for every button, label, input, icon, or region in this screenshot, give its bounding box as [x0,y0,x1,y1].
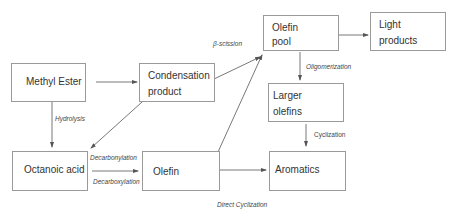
edge-condensation-to-olefin-pool [214,57,260,79]
node-label-line2: olefins [273,106,302,117]
node-olefin-pool: Olefin pool [263,15,339,51]
node-label: Octanoic acid [24,164,85,175]
node-larger-olefins: Larger olefins [268,83,344,122]
node-label: Methyl Ester [26,76,82,87]
edge-olefin-to-olefin-pool [218,55,262,152]
node-light-products: Light products [370,12,446,51]
edge-label-decarboxylation: Decarboxylation [93,178,140,185]
edge-label-hydrolysis: Hydrolysis [55,115,85,122]
edge-label-direct-cyclization: Direct Cyclization [217,201,267,208]
node-label-line1: Larger [273,90,302,101]
node-label-line2: products [379,35,417,46]
node-octanoic-acid: Octanoic acid [12,151,88,191]
edge-label-cyclization: Cyclization [314,131,345,138]
edge-label-oligomerization: Oligomerization [306,63,351,70]
node-label: Aromatics [275,164,319,175]
node-label-line1: Olefin [272,22,298,33]
node-aromatics: Aromatics [269,151,346,191]
edge-label-beta-scission: β-scission [213,40,242,47]
node-label-line1: Light [379,19,401,30]
node-methyl-ester: Methyl Ester [11,63,86,102]
node-label-line2: product [148,86,181,97]
edge-condensation-to-octanoic [91,102,142,148]
node-label: Olefin [153,166,179,177]
node-olefin: Olefin [142,151,220,191]
node-condensation-product: Condensation product [139,63,215,102]
node-label-line1: Condensation [148,70,210,81]
node-label-line2: pool [272,36,291,47]
edge-label-decarbonylation: Decarbonylation [90,154,137,161]
